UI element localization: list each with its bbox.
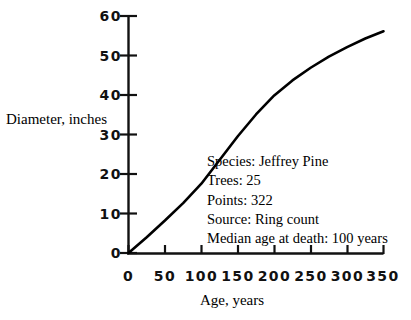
- annotation-source: Source: Ring count: [207, 210, 388, 229]
- y-tick-label-30: 30: [92, 128, 122, 142]
- y-axis-title: Diameter, inches: [6, 112, 107, 127]
- annotation-trees: Trees: 25: [207, 171, 388, 190]
- x-axis-title: Age, years: [200, 293, 264, 308]
- annotation-points: Points: 322: [207, 191, 388, 210]
- annotation-median-age: Median age at death: 100 years: [207, 229, 388, 248]
- x-tick-label-100: 100: [185, 269, 219, 283]
- y-tick-label-10: 10: [92, 207, 122, 221]
- y-tick-label-0: 0: [92, 246, 122, 260]
- x-tick-label-150: 150: [221, 269, 255, 283]
- annotation-species: Species: Jeffrey Pine: [207, 152, 388, 171]
- y-tick-label-20: 20: [92, 167, 122, 181]
- y-tick-label-60: 60: [92, 9, 122, 23]
- x-tick-label-50: 50: [154, 269, 176, 283]
- x-tick-label-200: 200: [258, 269, 292, 283]
- y-tick-label-50: 50: [92, 49, 122, 63]
- x-tick-label-350: 350: [366, 269, 400, 283]
- x-tick-label-300: 300: [331, 269, 365, 283]
- annotation-block: Species: Jeffrey Pine Trees: 25 Points: …: [207, 152, 388, 248]
- x-tick-label-250: 250: [294, 269, 328, 283]
- y-tick-label-40: 40: [92, 88, 122, 102]
- x-tick-label-0: 0: [123, 269, 134, 283]
- chart-figure: 60 50 40 30 20 10 0 0 50 100 150 200 250…: [0, 0, 411, 320]
